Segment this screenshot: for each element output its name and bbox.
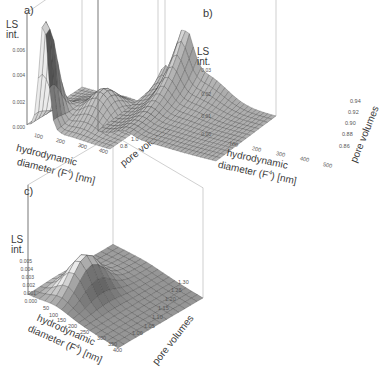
panel-b: b) LS int. 0.03 0.02 0.01 0.00 100 200 3…	[190, 0, 382, 185]
z-tick-b-1: 0.02	[187, 91, 211, 97]
z-tick-c-2: 0.003	[10, 274, 34, 280]
z-tick-a-2: 0.002	[1, 99, 25, 105]
y-tick-b-1: 0.92	[348, 109, 359, 115]
z-tick-c-5: 0.000	[13, 298, 37, 304]
z-tick-b-3: 0.00	[187, 131, 211, 137]
z-tick-c-1: 0.004	[9, 266, 33, 272]
z-tick-b-0: 0.03	[187, 67, 211, 73]
y-tick-c-4: 1.10	[152, 314, 163, 320]
z-axis-label-a: LS int.	[6, 20, 19, 40]
z-axis-label-b: LS int.	[197, 47, 210, 67]
z-axis-label-c: LS int.	[11, 235, 24, 255]
z-tick-b-2: 0.01	[187, 113, 211, 119]
z-tick-c-0: 0.005	[8, 258, 32, 264]
y-tick-b-0: 0.94	[350, 98, 361, 104]
y-tick-c-6: 1.00	[132, 330, 143, 336]
y-tick-c-3: 1.15	[158, 305, 169, 311]
panel-c: c) LS int. 0.005 0.004 0.003 0.002 0.001…	[0, 185, 200, 384]
z-tick-a-0: 0.006	[1, 47, 25, 53]
y-tick-c-0: 1.30	[178, 279, 189, 285]
y-tick-a-0: 0.8	[120, 143, 128, 149]
y-tick-b-2: 0.90	[345, 120, 356, 126]
x-tick-c-7: 400	[113, 347, 122, 353]
y-tick-b-3: 0.88	[342, 131, 353, 137]
y-tick-c-5: 1.05	[144, 323, 155, 329]
x-tick-c-0: 50	[43, 305, 49, 311]
z-tick-a-3: 0.000	[1, 124, 25, 130]
panel-label-b: b)	[203, 7, 213, 19]
panel-label-c: c)	[24, 185, 33, 197]
panel-label-a: a)	[24, 4, 34, 16]
y-tick-c-2: 1.20	[165, 296, 176, 302]
y-tick-b-4: 0.86	[339, 143, 350, 149]
y-tick-c-1: 1.25	[171, 287, 182, 293]
z-tick-a-1: 0.004	[1, 72, 25, 78]
z-tick-c-3: 0.002	[11, 282, 35, 288]
z-tick-c-4: 0.001	[12, 290, 36, 296]
